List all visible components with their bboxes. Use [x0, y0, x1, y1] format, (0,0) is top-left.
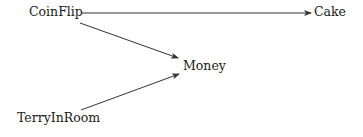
node-money: Money — [183, 60, 226, 73]
node-coinflip: CoinFlip — [29, 6, 83, 19]
node-terryinroom: TerryInRoom — [17, 112, 100, 125]
node-cake: Cake — [314, 6, 346, 19]
edge-terryinroom-money — [81, 74, 179, 110]
edge-coinflip-money — [80, 23, 178, 58]
